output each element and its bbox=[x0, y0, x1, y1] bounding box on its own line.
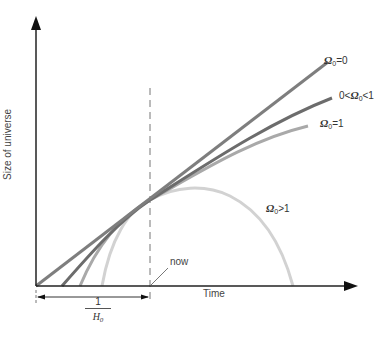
label-omega-between: 0<Ω0<1 bbox=[339, 89, 374, 102]
label-relation: >1 bbox=[278, 203, 289, 214]
denominator-symbol: H bbox=[93, 311, 100, 322]
fraction-denominator: H0 bbox=[83, 310, 113, 327]
label-relation: <1 bbox=[363, 90, 374, 101]
now-leader-line bbox=[150, 268, 168, 286]
y-axis-arrow-icon bbox=[31, 16, 41, 30]
omega-symbol: Ω bbox=[320, 117, 328, 129]
denominator-subscript: 0 bbox=[100, 316, 104, 324]
label-omega-one: Ω0=1 bbox=[320, 117, 344, 130]
hubble-time-fraction: 1 H0 bbox=[83, 296, 113, 327]
y-axis-label: Size of universe bbox=[2, 109, 13, 180]
now-label-text: now bbox=[170, 256, 188, 267]
curve-omega-zero bbox=[36, 62, 328, 286]
expansion-diagram bbox=[0, 0, 391, 339]
omega-symbol: Ω bbox=[350, 89, 358, 101]
curve-omega-between bbox=[62, 98, 332, 286]
curve-omega-greater-than-one bbox=[102, 188, 293, 286]
label-relation: =0 bbox=[336, 55, 347, 66]
label-omega-zero: Ω0=0 bbox=[324, 54, 348, 67]
x-axis-label: Time bbox=[203, 288, 225, 299]
fraction-bar bbox=[85, 308, 111, 309]
label-relation: =1 bbox=[332, 118, 343, 129]
now-label: now bbox=[170, 256, 188, 267]
label-prefix: 0< bbox=[339, 90, 350, 101]
dimension-arrow-right-icon bbox=[141, 295, 149, 300]
label-omega-greater: Ω0>1 bbox=[266, 202, 290, 215]
omega-symbol: Ω bbox=[266, 202, 274, 214]
x-axis-arrow-icon bbox=[344, 281, 358, 291]
omega-symbol: Ω bbox=[324, 54, 332, 66]
fraction-numerator: 1 bbox=[83, 296, 113, 307]
x-axis-label-text: Time bbox=[203, 288, 225, 299]
dimension-arrow-left-icon bbox=[37, 295, 45, 300]
y-axis-label-text: Size of universe bbox=[2, 109, 13, 180]
